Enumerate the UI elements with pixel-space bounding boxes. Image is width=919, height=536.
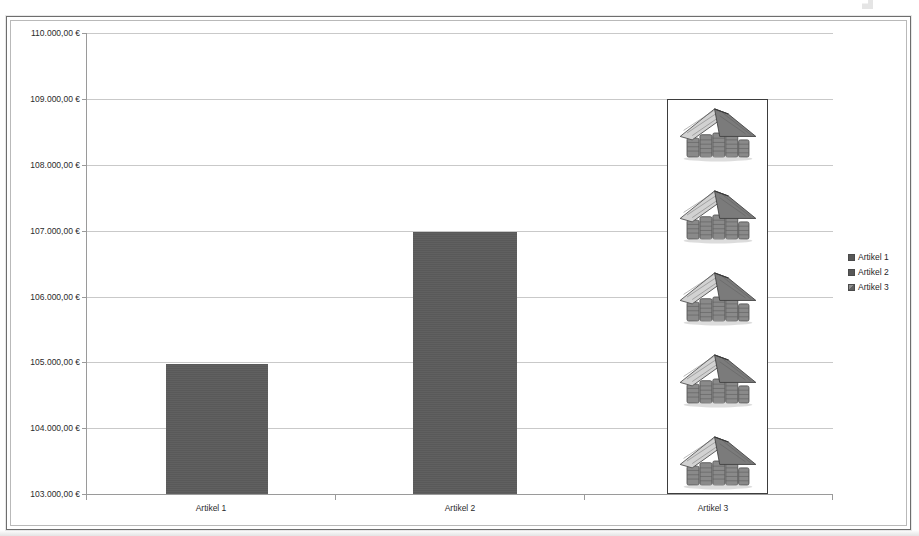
legend-item-artikel-2[interactable]: Artikel 2 bbox=[848, 267, 889, 277]
money-house-icon bbox=[675, 430, 761, 492]
page-bottom-edge bbox=[0, 530, 919, 536]
bar-artikel-1[interactable] bbox=[166, 364, 268, 494]
legend-item-artikel-1[interactable]: Artikel 1 bbox=[848, 252, 889, 262]
bar-artikel-3[interactable] bbox=[667, 99, 768, 494]
y-tick-label-108000: 108.000,00 € bbox=[14, 160, 80, 170]
y-tick-label-105000: 105.000,00 € bbox=[14, 357, 80, 367]
y-tick-label-109000: 109.000,00 € bbox=[14, 94, 80, 104]
y-tick-label-107000: 107.000,00 € bbox=[14, 226, 80, 236]
legend-label-artikel-3: Artikel 3 bbox=[858, 282, 889, 292]
legend-swatch-icon bbox=[848, 269, 855, 276]
legend-swatch-picture-icon bbox=[848, 284, 855, 291]
plot-area bbox=[86, 33, 832, 494]
bar-chart[interactable]: 110.000,00 € 109.000,00 € 108.000,00 € 1… bbox=[0, 0, 919, 536]
x-tick-2 bbox=[584, 494, 585, 500]
gridline-103000-baseline bbox=[87, 494, 833, 495]
money-house-icon bbox=[675, 266, 761, 328]
legend-label-artikel-1: Artikel 1 bbox=[858, 252, 889, 262]
y-tick-label-104000: 104.000,00 € bbox=[14, 423, 80, 433]
x-axis-label-artikel-2: Artikel 2 bbox=[445, 503, 476, 513]
gridline-110000 bbox=[87, 33, 833, 34]
x-tick-3 bbox=[832, 494, 833, 500]
y-tick-label-110000: 110.000,00 € bbox=[14, 28, 80, 38]
legend-item-artikel-3[interactable]: Artikel 3 bbox=[848, 282, 889, 292]
y-tick-label-106000: 106.000,00 € bbox=[14, 292, 80, 302]
x-axis-label-artikel-3: Artikel 3 bbox=[698, 503, 729, 513]
x-tick-1 bbox=[335, 494, 336, 500]
legend-swatch-icon bbox=[848, 254, 855, 261]
bar-artikel-2[interactable] bbox=[413, 232, 517, 494]
y-tick-label-103000: 103.000,00 € bbox=[14, 489, 80, 499]
x-tick-0 bbox=[86, 494, 87, 500]
money-house-icon bbox=[675, 102, 761, 164]
money-house-icon bbox=[675, 184, 761, 246]
legend-label-artikel-2: Artikel 2 bbox=[858, 267, 889, 277]
x-axis-label-artikel-1: Artikel 1 bbox=[196, 503, 227, 513]
money-house-icon bbox=[675, 348, 761, 410]
chart-legend[interactable]: Artikel 1 Artikel 2 Artikel 3 bbox=[848, 252, 889, 292]
